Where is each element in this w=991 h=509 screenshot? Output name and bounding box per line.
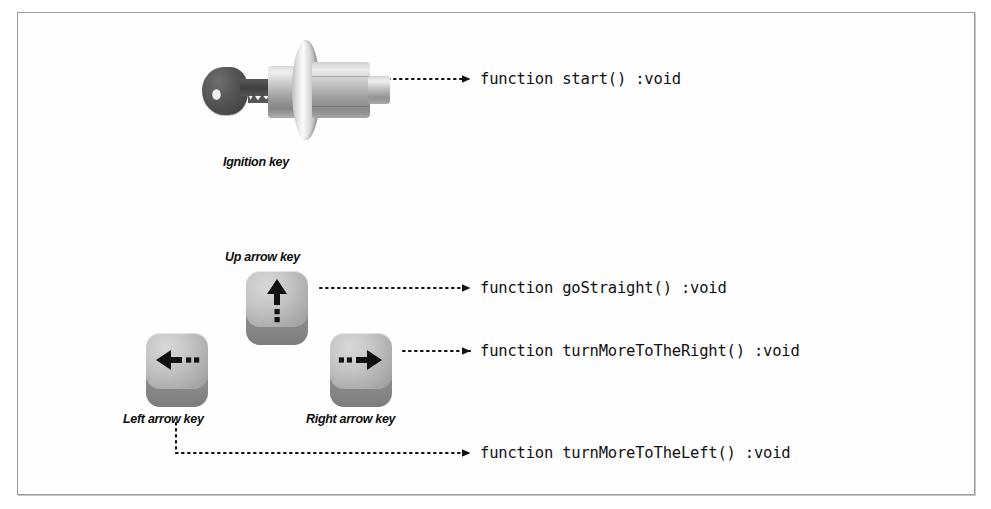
function-label-turn-more-to-the-right: function turnMoreToTheRight() :void [480, 344, 800, 360]
cylinder-nose [368, 76, 390, 104]
right-arrow-icon [330, 333, 392, 389]
caption-right-arrow-key: Right arrow key [306, 413, 395, 426]
function-label-go-straight: function goStraight() :void [480, 281, 727, 297]
up-arrow-icon [246, 271, 308, 327]
up-arrow-keycap[interactable] [246, 271, 308, 345]
function-label-turn-more-to-the-left: function turnMoreToTheLeft() :void [480, 446, 790, 462]
left-arrow-icon [146, 333, 208, 389]
connector-left [176, 423, 470, 453]
cylinder-housing [312, 62, 370, 118]
ignition-key-cylinder-icon [196, 38, 396, 143]
caption-up-arrow-key: Up arrow key [225, 251, 300, 264]
function-label-start: function start() :void [480, 72, 681, 88]
right-arrow-keycap[interactable] [330, 333, 392, 407]
caption-left-arrow-key: Left arrow key [123, 413, 204, 426]
figure-frame: Ignition key Up arrow key Left arrow key [17, 12, 975, 495]
key-bow-hole [212, 89, 221, 100]
caption-ignition-key: Ignition key [223, 156, 289, 169]
cylinder-seam-top [312, 76, 370, 77]
diagram-canvas: Ignition key Up arrow key Left arrow key [18, 13, 974, 494]
cylinder-seam-bottom [312, 106, 370, 107]
left-arrow-keycap[interactable] [146, 333, 208, 407]
